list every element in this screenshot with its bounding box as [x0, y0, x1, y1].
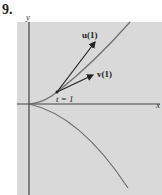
y-axis-label: y	[25, 12, 30, 22]
plot-background	[17, 22, 162, 195]
vector-v-label: v(1)	[97, 69, 112, 79]
point-label: t = 1	[56, 94, 74, 104]
figure: y x u(1) v(1) t = 1	[0, 0, 162, 195]
vector-u-label: u(1)	[82, 30, 98, 40]
x-axis-label: x	[155, 100, 160, 110]
